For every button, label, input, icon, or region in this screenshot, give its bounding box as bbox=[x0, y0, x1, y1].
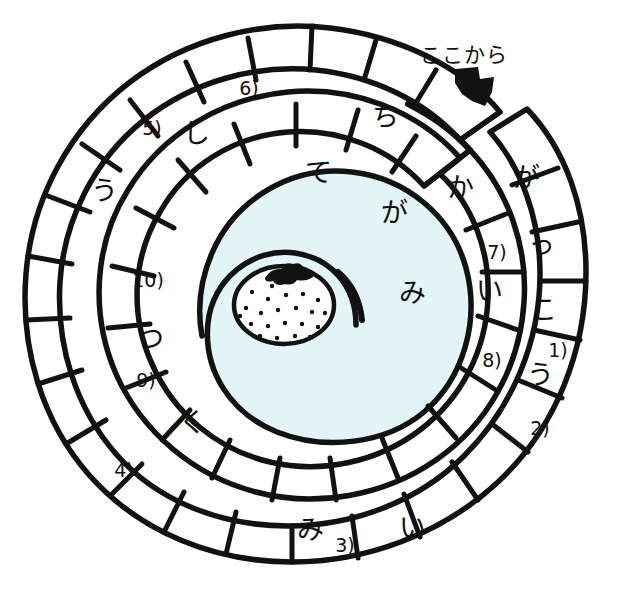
cell-kana-c10[interactable]: み bbox=[297, 516, 324, 543]
cell-kana-c28[interactable]: く bbox=[179, 409, 206, 436]
cell-number-c09[interactable]: 3) bbox=[335, 536, 355, 555]
cell-number-c16[interactable]: 5) bbox=[142, 119, 162, 138]
cell-number-c12[interactable]: 4) bbox=[114, 461, 134, 480]
cell-kana-c02[interactable]: っ bbox=[528, 231, 555, 258]
cell-number-c29[interactable]: 9) bbox=[136, 371, 156, 390]
strawberry-icon bbox=[234, 263, 334, 344]
cell-kana-c17[interactable]: し bbox=[183, 120, 210, 147]
cell-kana-c03[interactable]: こ bbox=[530, 296, 557, 323]
cell-number-c06[interactable]: 2) bbox=[530, 419, 550, 438]
cell-kana-c34[interactable]: て bbox=[305, 159, 332, 186]
cell-number-c04[interactable]: 1) bbox=[548, 341, 568, 360]
cell-number-c24[interactable]: 8) bbox=[482, 351, 502, 370]
cell-kana-c35[interactable]: が bbox=[381, 199, 408, 226]
cell-number-c18[interactable]: 6) bbox=[239, 79, 259, 98]
worksheet-canvas: ここから がっこ1)う2)い3)み4)う5)し6)ちか7)い8)く9)つ10)て… bbox=[0, 0, 620, 604]
cell-kana-c20[interactable]: ち bbox=[372, 103, 399, 130]
cell-kana-c15[interactable]: う bbox=[91, 177, 118, 204]
cell-number-c22[interactable]: 7) bbox=[487, 243, 507, 262]
cell-kana-c08[interactable]: い bbox=[399, 514, 426, 541]
cell-kana-c05[interactable]: う bbox=[527, 361, 554, 388]
cell-kana-c36[interactable]: み bbox=[399, 279, 426, 306]
cell-kana-c21[interactable]: か bbox=[447, 174, 474, 201]
cell-kana-c23[interactable]: い bbox=[476, 277, 503, 304]
start-caption: ここから bbox=[420, 38, 508, 68]
cell-number-c31[interactable]: 10) bbox=[132, 271, 164, 290]
cell-kana-c01[interactable]: が bbox=[513, 164, 540, 191]
cell-kana-c30[interactable]: つ bbox=[137, 325, 164, 352]
